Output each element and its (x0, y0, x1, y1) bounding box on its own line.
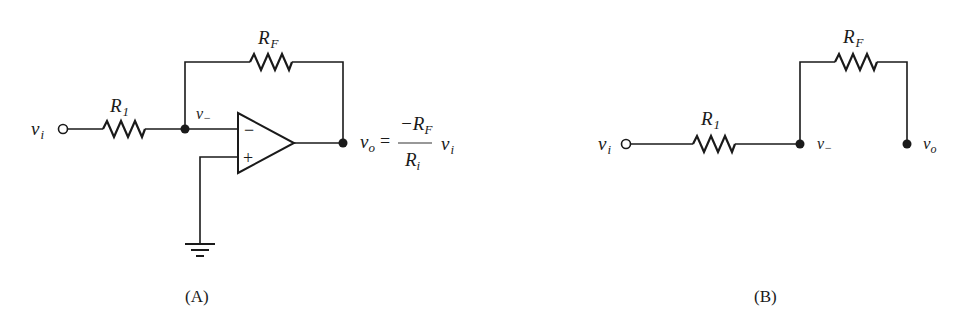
node-v-minus-label: v− (196, 105, 211, 125)
svg-text:Ri: Ri (404, 149, 421, 173)
opamp-plus-sign: + (243, 148, 253, 168)
svg-text:vo: vo (360, 131, 375, 155)
output-label: vo (923, 134, 937, 156)
output-node-icon (339, 139, 348, 148)
svg-text:=: = (380, 131, 390, 151)
circuit-figure: vi R1 v− RF − + vo = −RF (0, 0, 967, 324)
svg-text:−RF: −RF (400, 113, 433, 137)
resistor-rf-icon (835, 54, 877, 70)
resistor-rf-icon (250, 54, 292, 70)
r1-label: R1 (109, 95, 129, 119)
wire (292, 62, 343, 143)
gain-equation: vo = −RF Ri vi (360, 113, 454, 173)
output-node-icon (903, 140, 912, 149)
caption-b: (B) (754, 287, 777, 306)
ground-icon (185, 244, 215, 256)
rf-label: RF (842, 26, 865, 50)
wire (200, 157, 238, 244)
wire (800, 62, 835, 144)
r1-label: R1 (700, 108, 720, 132)
input-terminal-icon (59, 125, 68, 134)
wire (877, 62, 907, 144)
resistor-r1-icon (103, 121, 145, 137)
input-label: vi (598, 133, 611, 157)
node-v-minus-label: v− (817, 135, 832, 155)
opamp-minus-sign: − (244, 120, 254, 140)
panel-a-inverting-amplifier: vi R1 v− RF − + vo = −RF (31, 27, 454, 306)
resistor-r1-icon (693, 136, 735, 152)
panel-b-equivalent-circuit: vi R1 v− RF vo (B) (598, 26, 937, 306)
rf-label: RF (257, 27, 280, 51)
svg-text:vi: vi (441, 133, 454, 157)
caption-a: (A) (185, 287, 209, 306)
input-label: vi (31, 118, 44, 142)
input-terminal-icon (622, 140, 631, 149)
